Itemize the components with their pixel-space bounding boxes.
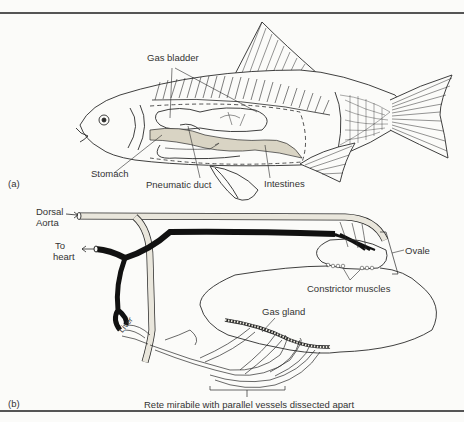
label-gas-gland: Gas gland <box>262 306 305 317</box>
label-intestines: Intestines <box>264 178 305 189</box>
label-to-heart-line2: heart <box>53 251 75 262</box>
label-gas-bladder: Gas bladder <box>147 52 199 63</box>
label-constrictor-muscles: Constrictor muscles <box>307 283 390 294</box>
label-to-heart-line1: To <box>55 240 65 251</box>
label-ovale: Ovale <box>405 245 430 256</box>
label-stomach: Stomach <box>91 168 129 179</box>
label-pneumatic-duct: Pneumatic duct <box>146 179 211 190</box>
label-rete-mirabile: Rete mirabile with parallel vessels diss… <box>144 399 354 410</box>
gas-bladder-circulation-diagram <box>0 0 464 422</box>
panel-b-tag: (b) <box>8 398 20 409</box>
panel-a-tag: (a) <box>8 178 20 189</box>
label-dorsal-aorta-line1: Dorsal <box>36 206 63 217</box>
label-dorsal-aorta-line2: Aorta <box>36 217 59 228</box>
